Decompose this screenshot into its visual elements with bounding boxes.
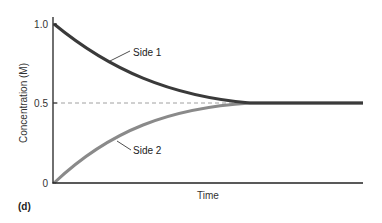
side-2-leader-line: [117, 141, 131, 150]
side-1-label: Side 1: [133, 47, 162, 58]
panel-label: (d): [18, 201, 31, 212]
series-side-1-line: [54, 24, 363, 103]
side-2-label: Side 2: [133, 145, 162, 156]
series-side-2-line: [54, 103, 363, 183]
y-tick-label-1: 1.0: [34, 19, 48, 30]
x-axis-title: Time: [197, 190, 219, 201]
y-tick-label-0: 0: [42, 178, 48, 189]
y-axis-title: Concentration (M): [18, 63, 29, 143]
side-1-leader-line: [110, 51, 130, 61]
concentration-chart: 1.0 0.5 0 Concentration (M) Time Side 1 …: [0, 0, 382, 223]
y-tick-label-0-5: 0.5: [34, 98, 48, 109]
